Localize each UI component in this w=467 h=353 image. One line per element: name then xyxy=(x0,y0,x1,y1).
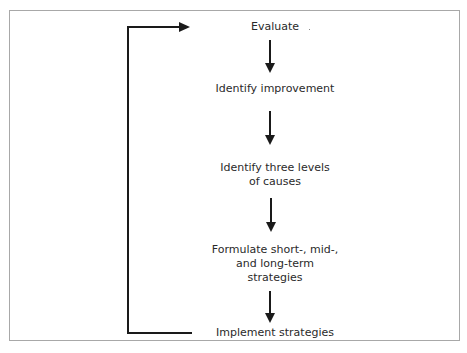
step-label: Implement strategies xyxy=(216,326,334,339)
step-label-line: Identify three levels xyxy=(200,161,350,175)
step-label-line: strategies xyxy=(200,271,350,285)
step-formulate-strategies: Formulate short-, mid-, and long-term st… xyxy=(200,243,350,285)
arrow-causes-to-formulate xyxy=(266,198,276,232)
step-label-line: of causes xyxy=(200,175,350,189)
step-label-line: and long-term xyxy=(200,257,350,271)
arrow-improvement-to-causes xyxy=(265,111,275,145)
step-identify-causes: Identify three levels of causes xyxy=(200,161,350,189)
step-implement-strategies: Implement strategies xyxy=(200,326,350,340)
step-identify-improvement: Identify improvement xyxy=(200,82,350,96)
arrow-evaluate-to-improvement xyxy=(265,40,275,73)
step-label: Identify improvement xyxy=(216,82,335,95)
feedback-loop-arrow xyxy=(128,22,192,333)
step-label: Evaluate xyxy=(251,20,299,33)
step-evaluate: Evaluate xyxy=(200,20,350,34)
arrow-formulate-to-implement xyxy=(265,291,275,323)
step-label-line: Formulate short-, mid-, xyxy=(200,243,350,257)
